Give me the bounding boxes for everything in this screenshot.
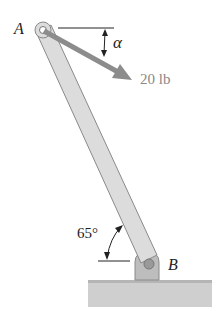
alpha-arrow-down [101, 50, 107, 57]
angle-arrow-up [115, 225, 123, 233]
label-a: A [14, 20, 24, 38]
ground [88, 280, 212, 307]
label-alpha: α [113, 33, 122, 53]
angle-arrow-down [104, 252, 110, 260]
label-force: 20 lb [140, 71, 170, 88]
alpha-arrow-up [102, 29, 108, 36]
label-angle-65: 65° [77, 225, 98, 242]
diagram-canvas [0, 0, 224, 318]
pin-b [144, 259, 154, 269]
label-b: B [168, 256, 178, 274]
